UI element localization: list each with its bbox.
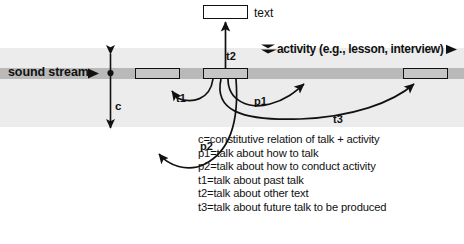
text-box-label: text: [254, 6, 273, 20]
activity-label: activity (e.g., lesson, interview): [277, 42, 444, 56]
label-t2: t2: [226, 50, 236, 62]
constitutive-relation-arrow: [107, 54, 113, 128]
legend-item: t2=talk about other text: [198, 187, 386, 201]
legend-item: t3=talk about future talk to be produced: [198, 201, 386, 215]
activity-right-arrow-icon: [446, 45, 457, 54]
activity-left-arrow-icon: [261, 45, 277, 54]
sound-stream-arrow-icon: [88, 69, 99, 79]
legend-item: c=constitutive relation of talk + activi…: [198, 133, 386, 147]
diagram-canvas: text sound stream activity (e.g., lesson…: [0, 0, 464, 244]
label-t1: t1: [176, 92, 186, 104]
legend-item: p2=talk about how to conduct activity: [198, 160, 386, 174]
label-c: c: [115, 100, 121, 112]
legend: c=constitutive relation of talk + activi…: [198, 133, 386, 215]
label-p1: p1: [254, 95, 267, 107]
legend-item: p1=talk about how to talk: [198, 147, 386, 161]
sound-stream-label: sound stream: [8, 65, 89, 79]
legend-item: t1=talk about past talk: [198, 174, 386, 188]
arrow-t3: [220, 79, 414, 119]
label-t3: t3: [333, 113, 343, 125]
